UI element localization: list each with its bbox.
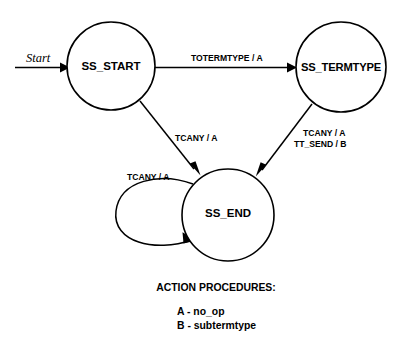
transition-ss_start-to-ss_termtype: TOTERMTYPE / A (155, 53, 297, 73)
ss_start-to-ss_termtype-label: TOTERMTYPE / A (191, 53, 263, 63)
ss_start-to-ss_end-label: TCANY / A (175, 133, 218, 143)
ss_termtype-to-ss_end-arrow-head-icon (256, 162, 266, 176)
ss_start-to-ss_end-arrow-head-icon (190, 161, 201, 175)
transition-ss_termtype-to-ss_end: TCANY / A TT_SEND / B (256, 104, 347, 177)
state-node-ss_termtype[interactable]: SS_TERMTYPE (296, 22, 386, 112)
ss_end-self-loop-label: TCANY / A (127, 172, 170, 182)
legend-entry-b: B - subtermtype (177, 320, 256, 331)
legend-entry-a: A - no_op (177, 306, 225, 317)
ss_termtype-to-ss_end-label-line1: TCANY / A (303, 128, 346, 138)
diagram-canvas: Start TOTERMTYPE / A TCANY / A TCANY / A… (0, 0, 400, 348)
state-node-ss_start[interactable]: SS_START (67, 22, 155, 110)
legend: ACTION PROCEDURES: A - no_op B - subterm… (156, 282, 276, 331)
transition-ss_start-to-ss_end: TCANY / A (140, 101, 218, 176)
state-machine-diagram: Start TOTERMTYPE / A TCANY / A TCANY / A… (0, 0, 400, 348)
start-label: Start (26, 51, 51, 65)
ss_start-label: SS_START (81, 60, 140, 72)
ss_termtype-to-ss_end-label-line2: TT_SEND / B (294, 139, 347, 149)
state-node-ss_end[interactable]: SS_END (182, 169, 274, 261)
ss_termtype-label: SS_TERMTYPE (301, 61, 382, 73)
transition-start-to-ss_start: Start (15, 51, 70, 73)
legend-title: ACTION PROCEDURES: (156, 282, 276, 293)
ss_end-label: SS_END (205, 207, 251, 219)
